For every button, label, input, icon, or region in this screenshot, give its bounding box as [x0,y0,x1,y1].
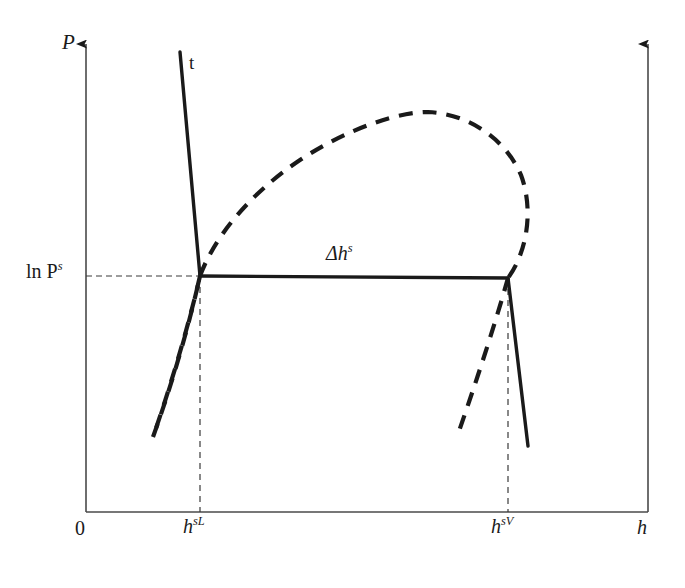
origin-label: 0 [75,518,85,538]
latent-heat-label: Δhs [326,243,353,263]
diagram-canvas [0,0,685,588]
h-sl-base: h [183,515,193,537]
saturation-pressure-axis-label: ln Ps [26,261,63,281]
phase-diagram-figure: P t ln Ps Δhs 0 hsL hsV h [0,0,685,588]
delta-h-base: Δh [326,242,348,264]
vapour-isotherm-solid [508,278,528,446]
liquid-isotherm-solid [180,52,200,276]
delta-h-superscript: s [348,241,353,255]
ln-prefix: ln P [26,260,58,282]
ln-ps-superscript: s [58,259,63,273]
h-sl-superscript: sL [193,514,205,528]
two-phase-tie-line [200,276,508,278]
enthalpy-axis-label: h [637,517,647,537]
h-sv-superscript: sV [501,514,513,528]
saturated-liquid-enthalpy-label: hsL [183,516,205,536]
vapour-isotherm-dashed-extension [457,278,508,437]
isotherm-label: t [189,53,194,72]
pressure-axis-label: P [62,32,75,53]
saturated-vapour-enthalpy-label: hsV [491,516,513,536]
h-sv-base: h [491,515,501,537]
